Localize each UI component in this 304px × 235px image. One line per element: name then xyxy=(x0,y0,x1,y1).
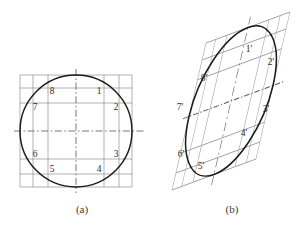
panel-a-group: 1 2 3 4 5 6 7 8 xyxy=(14,69,144,193)
caption-a: (a) xyxy=(52,203,112,215)
point-label-8: 8 xyxy=(50,86,55,96)
panel-a-centerlines xyxy=(14,69,144,193)
centerline-vertical xyxy=(212,17,251,185)
technical-drawing-figure: 1 2 3 4 5 6 7 8 xyxy=(0,0,304,235)
point-label-3-prime: 3' xyxy=(263,104,270,114)
point-label-1: 1 xyxy=(97,86,102,96)
point-label-4-prime: 4' xyxy=(241,128,248,138)
caption-b: (b) xyxy=(202,203,262,215)
figure-canvas: 1 2 3 4 5 6 7 8 xyxy=(0,0,304,235)
point-label-4: 4 xyxy=(97,164,102,174)
point-label-6: 6 xyxy=(33,149,38,159)
point-label-1-prime: 1' xyxy=(246,44,253,54)
point-label-5-prime: 5' xyxy=(198,161,205,171)
point-label-2: 2 xyxy=(114,102,119,112)
point-label-3: 3 xyxy=(114,149,119,159)
point-label-2-prime: 2' xyxy=(268,57,275,67)
point-label-5: 5 xyxy=(50,164,55,174)
point-label-7: 7 xyxy=(33,102,38,112)
point-label-7-prime: 7' xyxy=(177,102,184,112)
point-label-6-prime: 6' xyxy=(178,149,185,159)
panel-b-group xyxy=(164,0,303,203)
point-label-8-prime: 8' xyxy=(201,73,208,83)
